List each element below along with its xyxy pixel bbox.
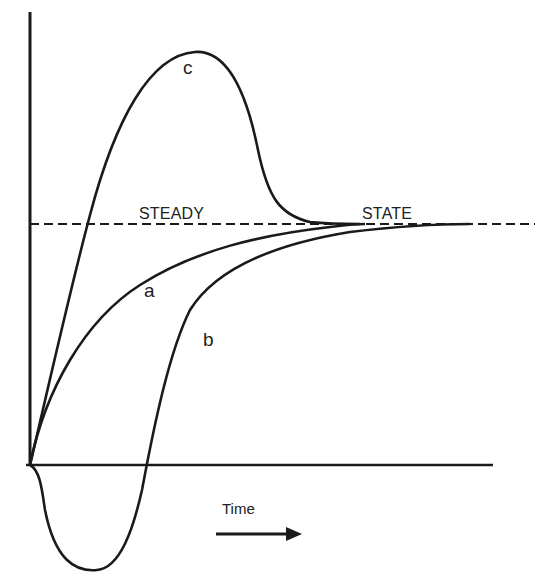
response-chart [0, 0, 535, 582]
curve-a [30, 224, 365, 465]
curve-a-label: a [144, 281, 155, 300]
state-label: STATE [362, 206, 412, 222]
steady-label: STEADY [139, 206, 204, 222]
curve-b-label: b [203, 330, 214, 349]
curve-c-label: c [183, 58, 193, 77]
curve-b [30, 224, 470, 570]
time-arrow-head-icon [286, 527, 302, 541]
x-axis-label: Time [222, 501, 255, 516]
